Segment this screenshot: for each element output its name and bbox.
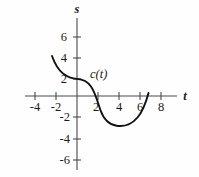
y-tick-label-minus4: -4: [60, 132, 71, 146]
x-axis-label: t: [183, 89, 187, 103]
y-tick-label-minus2: -2: [60, 110, 70, 124]
y-tick-label-4: 4: [61, 51, 68, 65]
plot-canvas: -4 -2 2 4 6 8 6 4 2 -2 -4 -6 s t c(t): [0, 0, 199, 177]
x-tick-label-4: 4: [116, 100, 123, 114]
graph-figure: -4 -2 2 4 6 8 6 4 2 -2 -4 -6 s t c(t): [0, 0, 199, 177]
x-tick-label-8: 8: [158, 100, 164, 114]
y-axis-label: s: [74, 2, 80, 16]
y-tick-label-minus6: -6: [60, 153, 70, 167]
y-tick-label-6: 6: [61, 30, 67, 44]
x-tick-label-minus4: -4: [30, 100, 41, 114]
curve-label: c(t): [90, 67, 107, 81]
